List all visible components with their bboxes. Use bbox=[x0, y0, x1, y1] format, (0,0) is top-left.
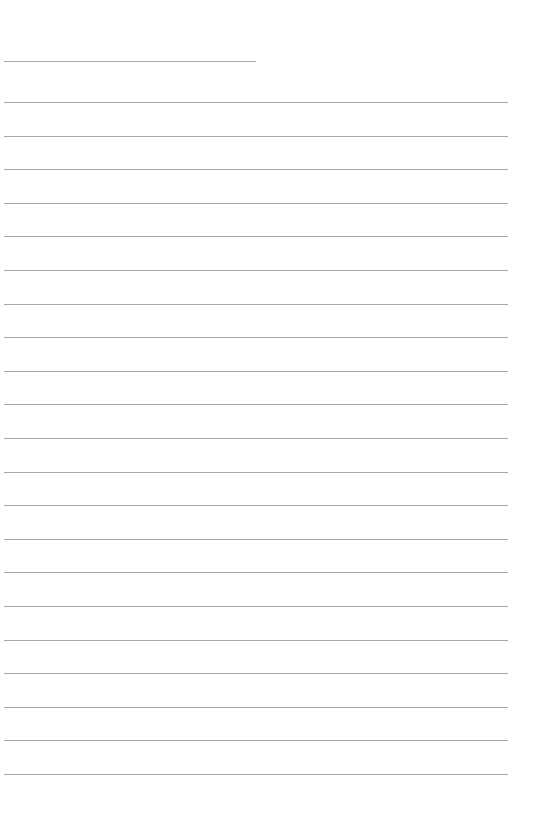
ruled-line bbox=[4, 270, 508, 271]
ruled-line bbox=[4, 707, 508, 708]
ruled-line bbox=[4, 539, 508, 540]
ruled-line bbox=[4, 404, 508, 405]
ruled-line bbox=[4, 102, 508, 103]
ruled-line bbox=[4, 371, 508, 372]
ruled-line bbox=[4, 505, 508, 506]
ruled-line bbox=[4, 472, 508, 473]
header-line bbox=[4, 61, 256, 62]
ruled-line bbox=[4, 740, 508, 741]
ruled-line bbox=[4, 304, 508, 305]
ruled-line bbox=[4, 774, 508, 775]
ruled-line bbox=[4, 640, 508, 641]
ruled-line bbox=[4, 337, 508, 338]
ruled-line bbox=[4, 236, 508, 237]
ruled-line bbox=[4, 572, 508, 573]
ruled-line bbox=[4, 136, 508, 137]
ruled-line bbox=[4, 169, 508, 170]
ruled-line bbox=[4, 438, 508, 439]
ruled-line bbox=[4, 673, 508, 674]
ruled-line bbox=[4, 606, 508, 607]
ruled-line bbox=[4, 203, 508, 204]
